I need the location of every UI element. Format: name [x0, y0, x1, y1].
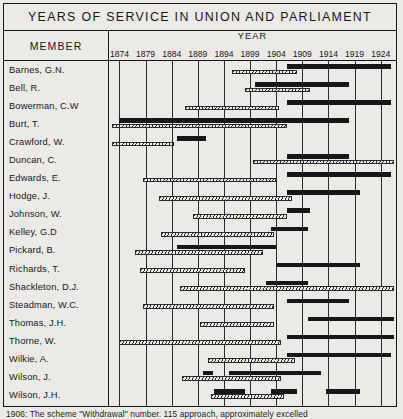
parliament-service-bar — [287, 299, 350, 304]
timeline-row[interactable] — [109, 151, 396, 169]
timeline-plot-area — [109, 61, 396, 406]
parliament-service-bar — [203, 371, 213, 376]
axis-tick-labels: 1874187918841889189418991904190919141919… — [109, 46, 396, 59]
union-service-bar — [112, 124, 287, 129]
member-name-label: Thorne, W. — [9, 336, 56, 346]
member-name-cell[interactable]: Burt, T. — [4, 115, 108, 133]
axis-tick-label-1899: 1899 — [241, 49, 260, 59]
parliament-service-bar — [287, 100, 392, 105]
axis-tick-label-1914: 1914 — [319, 49, 338, 59]
union-service-bar — [161, 232, 273, 237]
chart-title-band: YEARS OF SERVICE IN UNION AND PARLIAMENT — [4, 4, 396, 31]
member-name-cell[interactable]: Pickard, B. — [4, 241, 108, 259]
timeline-row[interactable] — [109, 314, 396, 332]
timeline-row[interactable] — [109, 223, 396, 241]
member-name-cell[interactable]: Hodge, J. — [4, 187, 108, 205]
union-service-bar — [159, 196, 292, 201]
member-name-cell[interactable]: Wilkie, A. — [4, 350, 108, 368]
timeline-row[interactable] — [109, 205, 396, 223]
timeline-row[interactable] — [109, 350, 396, 368]
timeline-row[interactable] — [109, 332, 396, 350]
parliament-service-bar — [271, 227, 308, 232]
member-name-cell[interactable]: Barnes, G.N. — [4, 61, 108, 79]
member-name-cell[interactable]: Thorne, W. — [4, 332, 108, 350]
member-name-label: Burt, T. — [9, 119, 39, 129]
parliament-service-bar — [287, 190, 360, 195]
parliament-service-bar — [308, 317, 394, 322]
member-name-cell[interactable]: Bowerman, C.W — [4, 97, 108, 115]
member-name-cell[interactable]: Duncan, C. — [4, 151, 108, 169]
member-name-label: Shackleton, D.J. — [9, 282, 79, 292]
axis-tick-label-1904: 1904 — [267, 49, 286, 59]
chart-body: Barnes, G.N.Bell, R.Bowerman, C.WBurt, T… — [4, 61, 396, 406]
union-service-bar — [140, 268, 245, 273]
column-header-year-label: YEAR — [109, 31, 396, 44]
parliament-service-bar — [287, 208, 311, 213]
union-service-bar — [208, 358, 294, 363]
member-name-cell[interactable]: Edwards, E. — [4, 169, 108, 187]
figure-caption: 1906: The scheme "Withdrawal" number. 11… — [6, 409, 398, 419]
union-service-bar — [185, 106, 279, 111]
timeline-row[interactable] — [109, 97, 396, 115]
member-name-cell[interactable]: Wilson, J.H. — [4, 386, 108, 404]
member-name-cell[interactable]: Kelley, G.D — [4, 223, 108, 241]
member-name-cell[interactable]: Steadman, W.C. — [4, 296, 108, 314]
union-service-bar — [112, 142, 175, 147]
axis-tick-label-1889: 1889 — [188, 49, 207, 59]
axis-tick-label-1909: 1909 — [293, 49, 312, 59]
timeline-row[interactable] — [109, 260, 396, 278]
member-name-label: Bell, R. — [9, 83, 40, 93]
parliament-service-bar — [287, 335, 394, 340]
timeline-row[interactable] — [109, 241, 396, 259]
timeline-row[interactable] — [109, 187, 396, 205]
member-name-label: Duncan, C. — [9, 155, 57, 165]
union-service-bar — [143, 304, 274, 309]
timeline-row[interactable] — [109, 133, 396, 151]
parliament-service-bar — [287, 353, 392, 358]
union-service-bar — [253, 160, 394, 165]
member-name-cell[interactable]: Richards, T. — [4, 260, 108, 278]
column-header-member-label: MEMBER — [30, 40, 83, 52]
parliament-service-bar — [229, 371, 320, 376]
member-name-cell[interactable]: Shackleton, D.J. — [4, 278, 108, 296]
timeline-row[interactable] — [109, 296, 396, 314]
member-name-cell[interactable]: Bell, R. — [4, 79, 108, 97]
timeline-row[interactable] — [109, 79, 396, 97]
timeline-row[interactable] — [109, 169, 396, 187]
member-name-label: Bowerman, C.W — [9, 101, 79, 111]
union-service-bar — [232, 70, 297, 75]
parliament-service-bar — [276, 263, 360, 268]
member-name-cell[interactable]: Wilson, J. — [4, 368, 108, 386]
union-service-bar — [143, 178, 276, 183]
timeline-row[interactable] — [109, 386, 396, 404]
union-service-bar — [200, 322, 273, 327]
member-name-label: Steadman, W.C. — [9, 300, 79, 310]
axis-tick-label-1894: 1894 — [214, 49, 233, 59]
member-name-cell[interactable]: Crawford, W. — [4, 133, 108, 151]
timeline-row[interactable] — [109, 61, 396, 79]
member-name-column: Barnes, G.N.Bell, R.Bowerman, C.WBurt, T… — [4, 61, 109, 406]
axis-tick-label-1874: 1874 — [110, 49, 129, 59]
member-name-label: Richards, T. — [9, 264, 60, 274]
member-name-label: Hodge, J. — [9, 191, 50, 201]
parliament-service-bar — [119, 118, 349, 123]
parliament-service-bar — [271, 389, 297, 394]
member-name-cell[interactable]: Thomas, J.H. — [4, 314, 108, 332]
union-service-bar — [193, 214, 287, 219]
parliament-service-bar — [177, 136, 206, 141]
union-service-bar — [245, 88, 310, 93]
parliament-service-bar — [266, 281, 308, 286]
axis-tick-label-1879: 1879 — [136, 49, 155, 59]
member-name-label: Wilson, J.H. — [9, 390, 60, 400]
union-service-bar — [180, 286, 394, 291]
axis-tick-label-1884: 1884 — [162, 49, 181, 59]
timeline-row[interactable] — [109, 278, 396, 296]
parliament-service-bar — [177, 245, 276, 250]
axis-tick-label-1919: 1919 — [345, 49, 364, 59]
member-name-cell[interactable]: Johnson, W. — [4, 205, 108, 223]
parliament-service-bar — [287, 172, 392, 177]
parliament-service-bar — [287, 64, 392, 69]
timeline-row[interactable] — [109, 115, 396, 133]
timeline-row[interactable] — [109, 368, 396, 386]
member-name-label: Johnson, W. — [9, 209, 62, 219]
